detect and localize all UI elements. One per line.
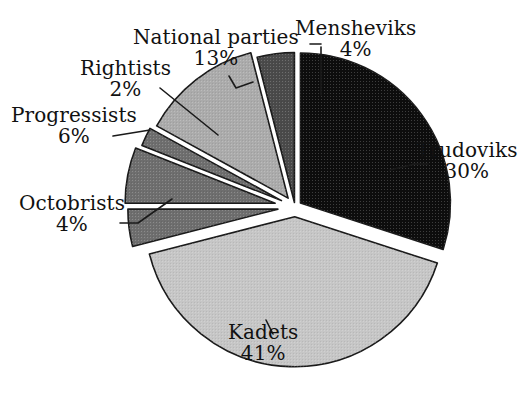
slice-label-national-parties-name: National parties [133,27,299,48]
slice-label-mensheviks: Mensheviks 4% [295,18,416,60]
slice-label-mensheviks-value: 4% [295,39,416,60]
pie-chart-figure: Mensheviks 4% National parties 13% Right… [0,0,524,399]
slice-label-mensheviks-name: Mensheviks [295,18,416,39]
slice-label-octobrists-name: Octobrists [19,193,125,214]
slice-label-kadets-value: 41% [228,343,298,364]
slice-label-trudoviks-name: Trudoviks [416,140,518,161]
slice-label-octobrists-value: 4% [19,214,125,235]
slice-label-progressists-name: Progressists [11,105,137,126]
slice-label-rightists-value: 2% [80,79,171,100]
slice-label-kadets: Kadets 41% [228,322,298,364]
slice-label-trudoviks-value: 30% [416,161,518,182]
slice-label-kadets-name: Kadets [228,322,298,343]
slice-label-rightists: Rightists 2% [80,58,171,100]
slice-label-octobrists: Octobrists 4% [19,193,125,235]
slice-label-rightists-name: Rightists [80,58,171,79]
slice-label-progressists-value: 6% [11,126,137,147]
slice-label-trudoviks: Trudoviks 30% [416,140,518,182]
slice-label-progressists: Progressists 6% [11,105,137,147]
